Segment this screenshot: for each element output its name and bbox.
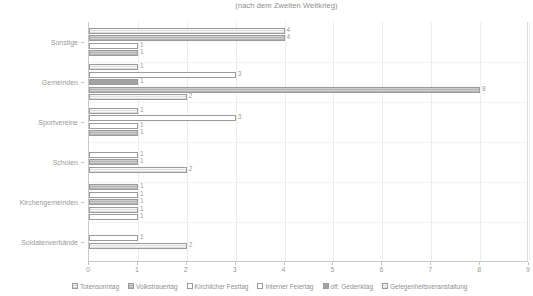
category-separator bbox=[89, 222, 527, 223]
bar-value-label: 1 bbox=[140, 129, 144, 136]
y-axis-tick-mark bbox=[81, 42, 84, 43]
x-axis-tick-mark bbox=[479, 262, 480, 265]
bar-value-label: 1 bbox=[140, 107, 144, 114]
bar bbox=[89, 79, 138, 85]
legend-item[interactable]: Kirchlicher Festtag bbox=[187, 283, 249, 290]
x-axis-tick-label: 5 bbox=[330, 266, 334, 273]
legend-swatch-icon bbox=[323, 283, 329, 289]
category-separator bbox=[89, 62, 527, 63]
legend-label: Gelegenheitsveranstaltung bbox=[390, 283, 467, 290]
y-axis-tick-mark bbox=[81, 202, 84, 203]
x-axis-tick-mark bbox=[186, 262, 187, 265]
legend-swatch-icon bbox=[128, 283, 134, 289]
bar bbox=[89, 235, 138, 241]
bar bbox=[89, 72, 236, 78]
bar bbox=[89, 28, 285, 34]
bar bbox=[89, 243, 187, 249]
category-separator bbox=[89, 142, 527, 143]
bar bbox=[89, 87, 480, 93]
bar bbox=[89, 94, 187, 100]
x-axis-tick-label: 2 bbox=[184, 266, 188, 273]
x-axis-tick-mark bbox=[284, 262, 285, 265]
x-axis-tick-mark bbox=[332, 262, 333, 265]
x-axis-tick-mark bbox=[381, 262, 382, 265]
chart-legend: TotensonntagVolkstrauertagKirchlicher Fe… bbox=[72, 280, 533, 292]
bar-value-label: 1 bbox=[140, 158, 144, 165]
x-axis-tick-label: 1 bbox=[135, 266, 139, 273]
legend-label: Volkstrauertag bbox=[136, 283, 178, 290]
y-axis-tick-label: Soldatenverbände bbox=[21, 239, 78, 246]
legend-item[interactable]: off. Gedenktag bbox=[323, 283, 374, 290]
bar bbox=[89, 214, 138, 220]
y-axis-tick-label: Schulen bbox=[53, 159, 78, 166]
gridline bbox=[529, 22, 530, 261]
bar bbox=[89, 152, 138, 158]
bar bbox=[89, 115, 236, 121]
x-axis-tick-mark bbox=[88, 262, 89, 265]
y-axis-tick-label: Sonstige bbox=[51, 39, 78, 46]
bar bbox=[89, 35, 285, 41]
legend-item[interactable]: Interner Feiertag bbox=[257, 283, 313, 290]
y-axis-tick-mark bbox=[81, 82, 84, 83]
bar-value-label: 1 bbox=[140, 213, 144, 220]
bar bbox=[89, 159, 138, 165]
bar-value-label: 1 bbox=[140, 198, 144, 205]
x-axis-tick-mark bbox=[430, 262, 431, 265]
y-axis: SonstigeGemeindenSportvereineSchulenKirc… bbox=[0, 22, 84, 262]
bar-value-label: 8 bbox=[482, 86, 486, 93]
legend-swatch-icon bbox=[382, 283, 388, 289]
bar-value-label: 2 bbox=[189, 166, 193, 173]
bar bbox=[89, 123, 138, 129]
x-axis-tick-mark bbox=[137, 262, 138, 265]
legend-item[interactable]: Gelegenheitsveranstaltung bbox=[382, 283, 467, 290]
bar-value-label: 1 bbox=[140, 78, 144, 85]
x-axis-tick-label: 4 bbox=[282, 266, 286, 273]
bar bbox=[89, 167, 187, 173]
bar bbox=[89, 50, 138, 56]
legend-item[interactable]: Volkstrauertag bbox=[128, 283, 178, 290]
x-axis-tick-label: 3 bbox=[233, 266, 237, 273]
bar-value-label: 1 bbox=[140, 63, 144, 70]
bar-value-label: 2 bbox=[189, 93, 193, 100]
x-axis-tick-mark bbox=[235, 262, 236, 265]
y-axis-tick-mark bbox=[81, 162, 84, 163]
y-axis-tick-label: Kirchengemeinden bbox=[20, 199, 78, 206]
bar bbox=[89, 64, 138, 70]
plot-area: 44111318213111121111112 bbox=[88, 22, 528, 262]
bar bbox=[89, 199, 138, 205]
x-axis-tick-label: 6 bbox=[379, 266, 383, 273]
bar bbox=[89, 43, 138, 49]
bar-value-label: 3 bbox=[238, 71, 242, 78]
bar-value-label: 3 bbox=[238, 114, 242, 121]
x-axis-tick-label: 8 bbox=[477, 266, 481, 273]
legend-item[interactable]: Totensonntag bbox=[72, 283, 119, 290]
legend-swatch-icon bbox=[257, 283, 263, 289]
bar-value-label: 1 bbox=[140, 183, 144, 190]
y-axis-tick-label: Gemeinden bbox=[42, 79, 78, 86]
bar-value-label: 4 bbox=[287, 34, 291, 41]
legend-label: Kirchlicher Festtag bbox=[195, 283, 249, 290]
bar bbox=[89, 130, 138, 136]
bar bbox=[89, 184, 138, 190]
legend-label: Interner Feiertag bbox=[265, 283, 313, 290]
y-axis-tick-label: Sportvereine bbox=[38, 119, 78, 126]
x-axis-tick-mark bbox=[528, 262, 529, 265]
bar-value-label: 1 bbox=[140, 49, 144, 56]
category-separator bbox=[89, 182, 527, 183]
bar bbox=[89, 108, 138, 114]
legend-swatch-icon bbox=[187, 283, 193, 289]
legend-label: Totensonntag bbox=[80, 283, 119, 290]
y-axis-tick-mark bbox=[81, 242, 84, 243]
category-separator bbox=[89, 102, 527, 103]
chart-title: (nach dem Zweiten Weltkrieg) bbox=[0, 1, 533, 10]
x-axis-tick-label: 0 bbox=[86, 266, 90, 273]
chart-container: (nach dem Zweiten Weltkrieg) SonstigeGem… bbox=[0, 0, 533, 296]
y-axis-tick-mark bbox=[81, 122, 84, 123]
legend-swatch-icon bbox=[72, 283, 78, 289]
bar-value-label: 1 bbox=[140, 234, 144, 241]
x-axis-tick-label: 9 bbox=[526, 266, 530, 273]
bar bbox=[89, 207, 138, 213]
legend-label: off. Gedenktag bbox=[331, 283, 374, 290]
bar-value-label: 2 bbox=[189, 242, 193, 249]
x-axis-tick-label: 7 bbox=[428, 266, 432, 273]
